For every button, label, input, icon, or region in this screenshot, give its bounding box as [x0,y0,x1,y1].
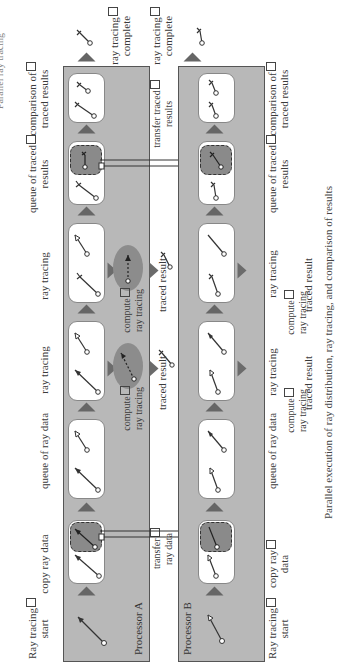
label-b-trace2: ray tracing [266,239,278,309]
label-b-complete: ray tracing complete [150,1,174,71]
label-b-copy: copy ray data [266,539,290,589]
ray-icon [200,607,240,647]
flow-arrow-icon [206,125,224,134]
label-b-trace1: ray tracing [266,337,278,407]
flow-arrow-icon [206,207,224,216]
traced-ray-icon [203,149,227,173]
figure-caption: Parallel execution of ray distribution, … [322,186,334,519]
ray-pair-icon [200,325,232,395]
flow-arrow-icon [206,587,224,596]
traced-ray-icon [190,23,214,47]
ray-icon [200,549,232,579]
label-b-queue: queue of ray data [266,401,278,501]
diagram-stage: Parallel ray tracing Ray tracing start c… [0,0,350,669]
down-arrow-icon [238,361,247,377]
ray-pair-icon [200,423,232,493]
label-traced-result-b1: traced result [302,353,314,413]
flow-arrow-icon [206,403,224,412]
traced-ray-pair-icon [200,75,232,119]
flow-arrow-icon [206,503,224,512]
label-traced-result-b2: traced result [302,255,314,315]
flow-arrow-icon [206,305,224,314]
label-b-compare: comparison of traced results [266,59,290,139]
ray-icon [201,523,229,551]
label-b-start: Ray tracing start [266,599,290,659]
processor-b-title: Processor B [181,602,193,655]
flow-arrow-icon [184,53,202,62]
down-arrow-icon [238,263,247,279]
label-b-queue-results: queue of traced results [266,134,290,214]
traced-ray-icon [202,179,230,201]
ray-pair-icon [200,227,232,297]
